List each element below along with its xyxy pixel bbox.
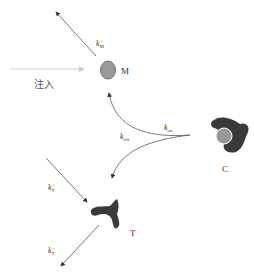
molecule-m (101, 61, 116, 79)
rate-kt-plus: kT+ (48, 183, 55, 193)
molecule-in-c (216, 128, 232, 144)
injection-label: 注入 (34, 78, 54, 90)
rate-koff: koff (120, 132, 130, 142)
label-t: T (130, 228, 136, 238)
arrow-kon (109, 93, 190, 136)
label-c: C (222, 164, 228, 174)
rate-kon: kon (164, 123, 173, 133)
rate-km-minus: kM− (96, 39, 105, 49)
arrow-kt-plus (46, 158, 87, 202)
diagram-canvas: 注入 M kM− kon koff C T kT+ kT− (0, 0, 254, 278)
receptor-t (91, 199, 120, 228)
label-m: M (121, 66, 129, 76)
rate-kt-minus: kT− (48, 246, 55, 256)
arrow-kt-minus (61, 225, 99, 266)
arrow-km-minus (56, 12, 96, 56)
